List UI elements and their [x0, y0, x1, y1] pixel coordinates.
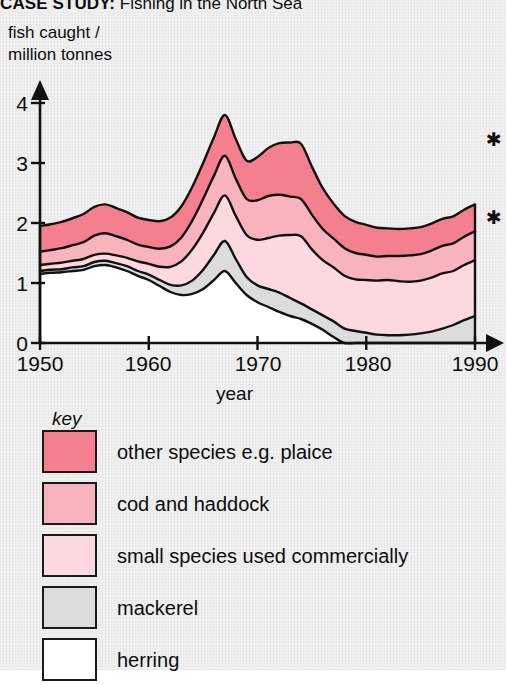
- x-tick-label-1950: 1950: [3, 353, 77, 374]
- page-title: CASE STUDY: Fishing in the North Sea: [0, 0, 506, 15]
- page-title-rest: Fishing in the North Sea: [115, 0, 302, 13]
- y-axis-arrowhead: [31, 80, 49, 100]
- chart-canvas: [0, 78, 506, 378]
- legend-label-herring: herring: [117, 648, 179, 672]
- legend-swatch-mackerel: [42, 586, 97, 629]
- legend-heading: key: [52, 408, 82, 430]
- y-axis-caption: fish caught / million tonnes: [8, 22, 112, 66]
- legend-swatch-herring: [42, 638, 97, 681]
- page-title-lead: CASE STUDY:: [0, 0, 115, 13]
- stacked-area-chart: [0, 78, 506, 378]
- legend-swatch-other-species: [42, 430, 97, 473]
- asterisk-annotation-upper: ✱: [486, 133, 502, 145]
- legend-label-cod-and-haddock: cod and haddock: [117, 492, 269, 516]
- x-tick-label-1980: 1980: [331, 353, 405, 374]
- y-tick-label-3: 3: [6, 153, 28, 174]
- legend-label-other-species: other species e.g. plaice: [117, 440, 333, 464]
- legend-label-mackerel: mackerel: [117, 596, 198, 620]
- x-axis-label: year: [216, 383, 253, 405]
- legend-swatch-small-species: [42, 534, 97, 577]
- x-tick-label-1990: 1990: [438, 353, 506, 374]
- y-tick-label-1: 1: [6, 273, 28, 294]
- x-tick-label-1960: 1960: [111, 353, 185, 374]
- x-tick-label-1970: 1970: [221, 353, 295, 374]
- chart-area-bands: [40, 115, 475, 343]
- legend-swatch-cod-and-haddock: [42, 482, 97, 525]
- y-tick-label-0: 0: [6, 333, 28, 354]
- legend-label-small-species: small species used commercially: [117, 544, 408, 568]
- x-axis-arrowhead: [486, 334, 504, 352]
- asterisk-annotation-lower: ✱: [486, 211, 502, 223]
- y-tick-label-2: 2: [6, 213, 28, 234]
- y-tick-label-4: 4: [6, 93, 28, 114]
